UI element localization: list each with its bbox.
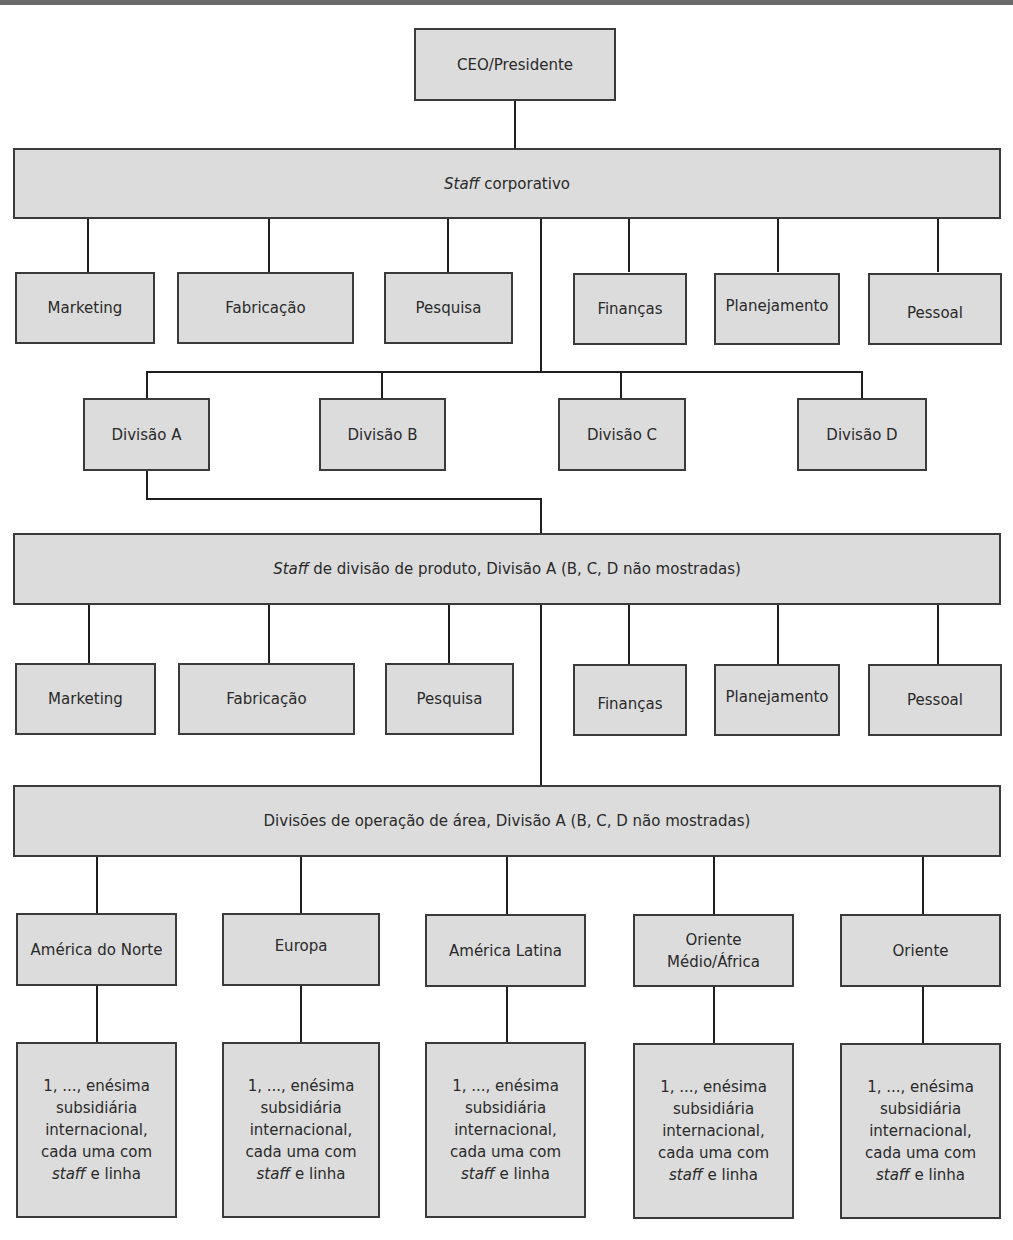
node-label: Divisão C [587, 424, 657, 446]
connector [620, 371, 622, 398]
node-div-marketing: Marketing [15, 663, 156, 735]
node-label: Fabricação [226, 688, 306, 710]
connector [447, 218, 449, 272]
node-label: Divisão B [347, 424, 417, 446]
node-subsidiarias-america-latina: 1, ..., enésimasubsidiáriainternacional,… [425, 1042, 586, 1218]
node-label: Fabricação [225, 297, 305, 319]
connector [937, 218, 939, 272]
node-label: Pesquisa [416, 297, 482, 319]
connector [540, 498, 542, 534]
node-div-financas: Finanças [573, 664, 687, 736]
node-label: Europa [275, 935, 328, 957]
connector [300, 856, 302, 914]
connector [713, 856, 715, 914]
connector [381, 371, 383, 398]
node-label: Finanças [597, 693, 662, 715]
connector [146, 371, 148, 398]
node-corp-fabricacao: Fabricação [177, 272, 354, 344]
node-label: Finanças [597, 298, 662, 320]
node-label: Oriente [686, 929, 742, 951]
connector [268, 604, 270, 664]
connector [514, 100, 516, 148]
node-label: Divisão D [826, 424, 897, 446]
node-label: Divisões de operação de área, Divisão A … [264, 810, 751, 832]
node-div-pessoal: Pessoal [868, 664, 1002, 736]
node-label: Pessoal [907, 302, 963, 324]
node-label: Pessoal [907, 689, 963, 711]
node-label: Pesquisa [417, 688, 483, 710]
connector [96, 986, 98, 1043]
node-label: América do Norte [31, 939, 163, 961]
node-label: América Latina [449, 940, 562, 962]
node-america-latina: América Latina [425, 914, 586, 987]
connector [268, 218, 270, 272]
node-corp-financas: Finanças [573, 273, 687, 345]
node-divisao-b: Divisão B [319, 398, 446, 471]
node-ceo: CEO/Presidente [414, 28, 616, 101]
connector [713, 986, 715, 1043]
node-oriente-medio-africa: OrienteMédio/África [633, 914, 794, 987]
node-oriente: Oriente [840, 914, 1001, 987]
node-div-planejamento: Planejamento [714, 664, 840, 736]
connector [96, 856, 98, 914]
connector [628, 604, 630, 664]
node-europa: Europa [222, 913, 380, 986]
connector [146, 498, 542, 500]
node-label: Divisão A [112, 424, 182, 446]
node-corp-marketing: Marketing [15, 272, 155, 344]
connector [922, 986, 924, 1043]
connector [540, 218, 542, 372]
connector [861, 371, 863, 398]
connector [922, 856, 924, 914]
node-america-do-norte: América do Norte [16, 913, 177, 986]
connector [448, 604, 450, 664]
connector [540, 604, 542, 786]
node-divisoes-operacao-area: Divisões de operação de área, Divisão A … [13, 785, 1001, 857]
node-corp-pesquisa: Pesquisa [384, 272, 513, 344]
node-div-pesquisa: Pesquisa [385, 663, 514, 735]
connector [146, 371, 863, 373]
connector [300, 986, 302, 1043]
node-label: Marketing [48, 688, 123, 710]
node-label: Planejamento [726, 295, 829, 317]
node-label: Staff corporativo [444, 173, 570, 195]
connector [628, 218, 630, 272]
node-corp-planejamento: Planejamento [714, 273, 840, 345]
node-label: Planejamento [726, 686, 829, 708]
node-subsidiarias-oriente-medio-africa: 1, ..., enésimasubsidiáriainternacional,… [633, 1043, 794, 1219]
node-divisao-c: Divisão C [558, 398, 686, 471]
connector [777, 218, 779, 272]
connector [506, 986, 508, 1043]
node-div-fabricacao: Fabricação [178, 663, 355, 735]
node-label: Marketing [48, 297, 123, 319]
node-divisao-a: Divisão A [83, 398, 210, 471]
node-label: Staff de divisão de produto, Divisão A (… [273, 558, 741, 580]
node-label: Oriente [893, 940, 949, 962]
connector [88, 604, 90, 664]
node-staff-corporativo: Staff corporativo [13, 148, 1001, 219]
node-label: CEO/Presidente [457, 54, 573, 76]
node-divisao-d: Divisão D [797, 398, 927, 471]
page-top-edge [0, 0, 1013, 5]
connector [506, 856, 508, 914]
node-staff-divisao-produto: Staff de divisão de produto, Divisão A (… [13, 533, 1001, 605]
node-subsidiarias-america-do-norte: 1, ..., enésimasubsidiáriainternacional,… [16, 1042, 177, 1218]
connector [146, 470, 148, 500]
node-corp-pessoal: Pessoal [868, 273, 1002, 345]
node-subsidiarias-oriente: 1, ..., enésimasubsidiáriainternacional,… [840, 1043, 1001, 1219]
connector [937, 604, 939, 664]
node-subsidiarias-europa: 1, ..., enésimasubsidiáriainternacional,… [222, 1042, 380, 1218]
connector [777, 604, 779, 664]
connector [87, 218, 89, 272]
